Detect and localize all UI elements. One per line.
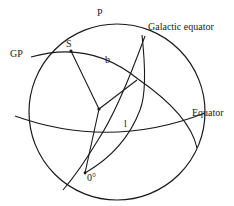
origin-point xyxy=(84,172,87,175)
label-equator: Equator xyxy=(192,108,224,118)
label-galactic-equator: Galactic equator xyxy=(148,22,214,32)
latitude-arc xyxy=(31,52,197,148)
center-point xyxy=(97,107,100,110)
sphere-outline xyxy=(29,24,205,200)
label-star: S xyxy=(66,39,72,49)
label-origin: 0° xyxy=(87,173,96,183)
equator-line xyxy=(15,113,205,132)
star-meridian xyxy=(71,51,99,109)
label-latitude: b xyxy=(105,55,110,65)
center-to-intersection xyxy=(99,80,137,109)
label-pole: P xyxy=(97,8,103,18)
label-longitude: l xyxy=(124,119,127,129)
star-point xyxy=(69,49,72,52)
label-galactic-pole: GP xyxy=(10,49,23,59)
